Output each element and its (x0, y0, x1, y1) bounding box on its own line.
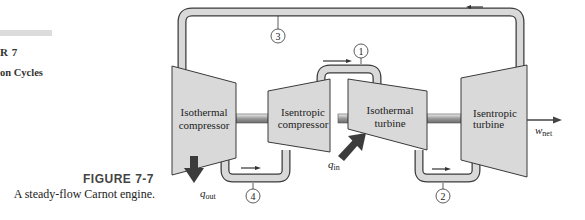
isothermal-turbine-label-2: turbine (374, 117, 405, 129)
svg-text:2: 2 (441, 191, 446, 202)
state-marker-2: 2 (436, 183, 450, 203)
isentropic-compressor-label-2: compressor (278, 118, 329, 130)
heat-in-arrow-icon (338, 133, 366, 161)
work-out-arrow-icon (527, 117, 562, 124)
shaft-compressor-turbine (338, 114, 348, 123)
isentropic-turbine-label-2: turbine (473, 118, 504, 130)
shaft-compressors (236, 114, 268, 123)
q-out-label: qout (200, 187, 217, 201)
isothermal-compressor-label-2: compressor (179, 119, 230, 131)
svg-text:1: 1 (359, 46, 364, 57)
q-in-label: qin (328, 158, 340, 172)
state-marker-3: 3 (271, 16, 285, 43)
state-marker-1: 1 (354, 44, 368, 64)
svg-text:3: 3 (276, 31, 281, 42)
shaft-turbines (427, 114, 461, 123)
state-marker-4: 4 (246, 183, 260, 203)
w-net-label: wnet (535, 124, 553, 138)
flow-arrow-1 (323, 59, 352, 63)
flow-arrow-4 (241, 166, 261, 170)
carnot-engine-diagram: Isothermal compressor Isentropic compres… (0, 0, 585, 220)
isothermal-turbine-label-1: Isothermal (366, 104, 413, 116)
svg-text:4: 4 (251, 191, 256, 202)
isothermal-compressor-label-1: Isothermal (180, 106, 227, 118)
isentropic-compressor-label-1: Isentropic (281, 106, 325, 118)
flow-arrow-2 (432, 167, 451, 171)
